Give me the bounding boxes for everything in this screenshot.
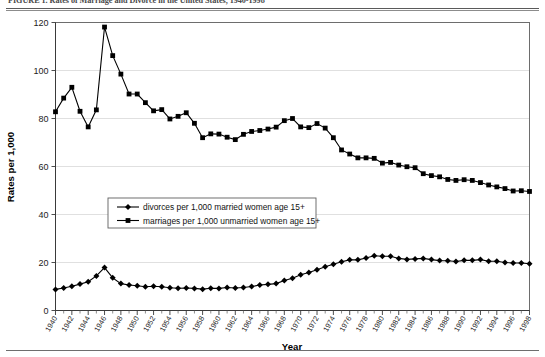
x-axis-tick-label: 1986: [419, 315, 435, 334]
data-point-marker: [396, 255, 402, 261]
y-axis-tick-label: 0: [43, 306, 48, 316]
data-point-marker: [380, 161, 385, 166]
data-point-marker: [167, 285, 173, 291]
data-point-marker: [519, 188, 524, 193]
data-point-marker: [486, 258, 492, 264]
legend-label: marriages per 1,000 unmarried women age …: [143, 216, 320, 226]
figure-caption: FIGURE 1. Rates of Marriage and Divorce …: [8, 0, 536, 7]
data-point-marker: [232, 285, 238, 291]
data-point-marker: [322, 264, 328, 270]
data-point-marker: [290, 275, 296, 281]
x-axis-tick-label: 1998: [517, 315, 533, 334]
data-point-marker: [511, 189, 516, 194]
data-point-marker: [396, 163, 401, 168]
x-axis-tick-label: 1972: [305, 315, 321, 334]
data-point-marker: [191, 285, 197, 291]
data-point-marker: [420, 255, 426, 261]
data-point-marker: [233, 137, 238, 142]
x-axis-tick-label: 1994: [485, 314, 501, 333]
legend-key-marker: [126, 218, 131, 223]
data-point-marker: [454, 178, 459, 183]
data-point-marker: [61, 285, 67, 291]
x-axis-ticks: 1940194219441946194819501952195419561958…: [43, 23, 533, 334]
data-point-marker: [323, 126, 328, 131]
x-axis-tick-label: 1992: [468, 315, 484, 334]
data-point-marker: [477, 257, 483, 263]
data-point-marker: [494, 185, 499, 190]
data-point-marker: [249, 129, 254, 134]
series-marriages: [53, 25, 532, 194]
data-point-marker: [249, 284, 255, 290]
data-point-marker: [102, 25, 107, 30]
data-point-marker: [241, 132, 246, 137]
data-point-marker: [69, 85, 74, 90]
data-point-marker: [134, 283, 140, 289]
x-axis-tick-label: 1964: [239, 315, 255, 334]
data-point-marker: [339, 148, 344, 153]
x-axis-tick-label: 1942: [60, 315, 76, 334]
data-point-marker: [298, 125, 303, 130]
y-axis-tick-label: 100: [33, 66, 48, 76]
data-point-marker: [200, 135, 205, 140]
x-axis-tick-label: 1970: [288, 315, 304, 334]
y-axis-tick-label: 120: [33, 18, 48, 28]
data-point-marker: [126, 282, 132, 288]
data-point-marker: [183, 285, 189, 291]
data-point-marker: [94, 107, 99, 112]
data-point-marker: [355, 257, 361, 263]
data-point-marker: [135, 92, 140, 97]
data-point-marker: [151, 283, 157, 289]
data-point-marker: [306, 270, 312, 276]
data-point-marker: [486, 183, 491, 188]
data-point-marker: [151, 108, 156, 113]
data-point-marker: [527, 189, 532, 194]
data-point-marker: [364, 155, 369, 160]
data-point-marker: [503, 186, 508, 191]
y-axis-tick-label: 20: [38, 258, 48, 268]
x-axis-title: Year: [282, 341, 303, 352]
data-point-marker: [315, 121, 320, 126]
x-axis-tick-label: 1996: [501, 315, 517, 334]
data-point-marker: [273, 281, 279, 287]
x-axis-tick-label: 1990: [452, 315, 468, 334]
data-point-marker: [110, 53, 115, 58]
x-axis-tick-label: 1988: [435, 315, 451, 334]
data-point-marker: [429, 173, 434, 178]
caption-rule-bottom: [6, 10, 539, 11]
data-point-marker: [281, 278, 287, 284]
data-point-marker: [445, 177, 450, 182]
data-point-marker: [168, 117, 173, 122]
x-axis-tick-label: 1982: [386, 315, 402, 334]
data-point-marker: [184, 110, 189, 115]
data-point-marker: [462, 177, 467, 182]
chart-legend: divorces per 1,000 married women age 15+…: [108, 198, 320, 228]
data-point-marker: [437, 174, 442, 179]
x-axis-tick-label: 1952: [141, 315, 157, 334]
data-point-marker: [518, 260, 524, 266]
y-axis-tick-label: 60: [38, 162, 48, 172]
line-chart: 020406080100120 194019421944194619481950…: [0, 12, 545, 357]
data-point-marker: [78, 109, 83, 114]
data-point-marker: [363, 255, 369, 261]
data-point-marker: [404, 256, 410, 262]
data-point-marker: [494, 258, 500, 264]
x-axis-tick-label: 1958: [190, 315, 206, 334]
data-point-marker: [445, 258, 451, 264]
x-axis-tick-label: 1944: [76, 315, 92, 334]
x-axis-tick-label: 1976: [337, 315, 353, 334]
data-point-marker: [470, 178, 475, 183]
data-point-marker: [216, 285, 222, 291]
data-point-marker: [355, 155, 360, 160]
data-point-marker: [225, 135, 230, 140]
legend-label: divorces per 1,000 married women age 15+: [143, 202, 305, 212]
data-point-marker: [331, 135, 336, 140]
data-point-marker: [257, 128, 262, 133]
data-point-marker: [265, 281, 271, 287]
data-point-marker: [86, 125, 91, 130]
x-axis-tick-label: 1946: [92, 315, 108, 334]
data-point-marker: [298, 272, 304, 278]
x-axis-tick-label: 1968: [272, 315, 288, 334]
data-point-marker: [217, 132, 222, 137]
data-point-marker: [388, 160, 393, 165]
data-point-marker: [143, 100, 148, 105]
